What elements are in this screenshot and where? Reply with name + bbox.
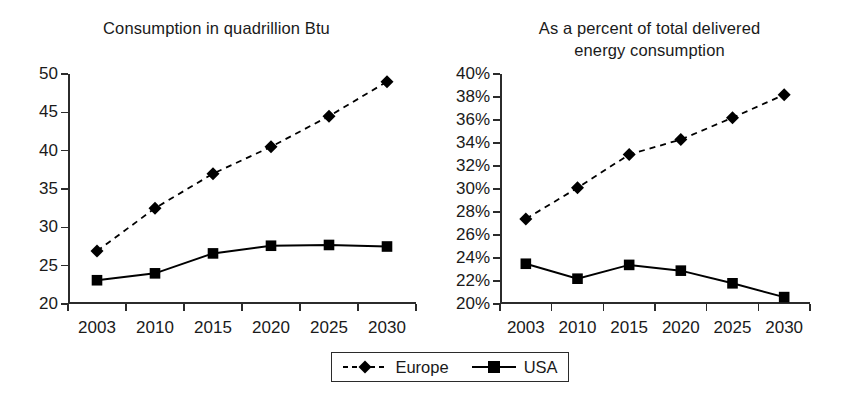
- x-tick-label-percent: 2003: [507, 318, 545, 338]
- series-line-usa-consumption: [97, 245, 387, 280]
- y-tick-percent: [493, 211, 500, 213]
- x-tick-label-consumption: 2020: [252, 318, 290, 338]
- x-tick-label-consumption: 2010: [136, 318, 174, 338]
- data-point-europe-2003: [91, 245, 104, 258]
- legend-marker-diamond-icon: [342, 359, 388, 375]
- x-tick-consumption: [125, 304, 127, 311]
- x-tick-label-consumption: 2003: [78, 318, 116, 338]
- x-tick-label-percent: 2030: [765, 318, 803, 338]
- data-point-usa-2030: [382, 241, 393, 252]
- y-tick-label-consumption: 40: [39, 141, 58, 161]
- y-tick-label-percent: 32%: [456, 156, 490, 176]
- data-point-usa-2025: [324, 240, 335, 251]
- chart-title-percent-line2: energy consumption: [433, 40, 866, 62]
- legend-label-europe: Europe: [395, 358, 448, 377]
- y-tick-consumption: [61, 227, 68, 229]
- data-point-usa-2025: [727, 278, 738, 289]
- chart-legend: Europe USA: [331, 352, 569, 382]
- y-tick-label-percent: 24%: [456, 248, 490, 268]
- y-tick-label-percent: 22%: [456, 271, 490, 291]
- plot-area-consumption: 20253035404550 200320102015202020252030: [68, 74, 416, 304]
- data-point-europe-2020: [265, 140, 278, 153]
- y-tick-consumption: [61, 265, 68, 267]
- y-tick-label-percent: 38%: [456, 87, 490, 107]
- x-tick-consumption: [67, 304, 69, 311]
- x-tick-percent: [603, 304, 605, 311]
- x-tick-label-consumption: 2025: [310, 318, 348, 338]
- data-point-usa-2020: [676, 265, 687, 276]
- series-line-europe-consumption: [97, 82, 387, 251]
- legend-marker-square-icon: [471, 359, 517, 375]
- series-layer-consumption: [68, 74, 416, 304]
- x-tick-percent: [551, 304, 553, 311]
- y-tick-label-consumption: 45: [39, 102, 58, 122]
- x-tick-label-percent: 2010: [559, 318, 597, 338]
- y-tick-percent: [493, 73, 500, 75]
- y-tick-consumption: [61, 188, 68, 190]
- x-tick-consumption: [415, 304, 417, 311]
- chart-title-consumption-text: Consumption in quadrillion Btu: [103, 19, 330, 37]
- data-point-europe-2030: [778, 88, 791, 101]
- y-tick-label-percent: 34%: [456, 133, 490, 153]
- y-tick-label-consumption: 50: [39, 64, 58, 84]
- series-line-usa-percent: [526, 264, 784, 297]
- x-tick-consumption: [357, 304, 359, 311]
- series-layer-percent: [500, 74, 810, 304]
- legend-entry-usa: USA: [471, 358, 558, 377]
- data-point-europe-2020: [674, 133, 687, 146]
- x-tick-label-percent: 2020: [662, 318, 700, 338]
- y-tick-label-consumption: 30: [39, 217, 58, 237]
- legend-label-usa: USA: [524, 358, 558, 377]
- data-point-europe-2025: [726, 111, 739, 124]
- x-tick-percent: [654, 304, 656, 311]
- y-tick-consumption: [61, 112, 68, 114]
- y-tick-label-percent: 20%: [456, 294, 490, 314]
- y-tick-label-percent: 30%: [456, 179, 490, 199]
- y-tick-label-consumption: 25: [39, 256, 58, 276]
- data-point-europe-2015: [207, 167, 220, 180]
- y-tick-percent: [493, 142, 500, 144]
- y-tick-percent: [493, 257, 500, 259]
- x-tick-percent: [499, 304, 501, 311]
- data-point-europe-2003: [519, 212, 532, 225]
- data-point-usa-2020: [266, 240, 277, 251]
- data-point-europe-2025: [323, 110, 336, 123]
- data-point-europe-2010: [149, 202, 162, 215]
- x-tick-label-consumption: 2030: [368, 318, 406, 338]
- data-point-usa-2030: [779, 292, 790, 303]
- y-tick-percent: [493, 96, 500, 98]
- x-tick-percent: [809, 304, 811, 311]
- x-tick-consumption: [299, 304, 301, 311]
- data-point-usa-2010: [572, 273, 583, 284]
- x-tick-label-consumption: 2015: [194, 318, 232, 338]
- data-point-europe-2030: [381, 75, 394, 88]
- legend-entry-europe: Europe: [342, 358, 448, 377]
- y-tick-label-percent: 40%: [456, 64, 490, 84]
- y-tick-consumption: [61, 73, 68, 75]
- data-point-usa-2015: [624, 260, 635, 271]
- x-tick-percent: [758, 304, 760, 311]
- y-tick-consumption: [61, 150, 68, 152]
- y-tick-label-consumption: 35: [39, 179, 58, 199]
- plot-area-percent: 20%22%24%26%28%30%32%34%36%38%40% 200320…: [500, 74, 810, 304]
- chart-title-percent-line1: As a percent of total delivered: [433, 18, 866, 40]
- chart-title-percent: As a percent of total delivered energy c…: [433, 18, 866, 62]
- data-point-usa-2010: [150, 268, 161, 279]
- data-point-europe-2015: [623, 148, 636, 161]
- y-tick-label-percent: 36%: [456, 110, 490, 130]
- data-point-usa-2003: [92, 275, 103, 286]
- y-tick-percent: [493, 165, 500, 167]
- y-tick-percent: [493, 234, 500, 236]
- data-point-usa-2015: [208, 248, 219, 259]
- y-tick-label-consumption: 20: [39, 294, 58, 314]
- y-tick-percent: [493, 188, 500, 190]
- y-tick-label-percent: 26%: [456, 225, 490, 245]
- x-tick-consumption: [241, 304, 243, 311]
- x-tick-consumption: [183, 304, 185, 311]
- chart-figure: Consumption in quadrillion Btu As a perc…: [0, 0, 866, 399]
- data-point-europe-2010: [571, 181, 584, 194]
- chart-title-consumption: Consumption in quadrillion Btu: [0, 18, 433, 40]
- y-tick-label-percent: 28%: [456, 202, 490, 222]
- data-point-usa-2003: [521, 258, 532, 269]
- series-line-europe-percent: [526, 95, 784, 219]
